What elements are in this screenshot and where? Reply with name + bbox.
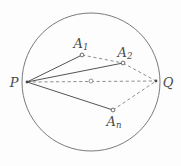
- point-label-A1: A1: [74, 37, 89, 50]
- vertex-marker-An: [111, 108, 115, 112]
- vertex-marker-A1: [80, 53, 84, 57]
- point-label-A2-sub: 2: [127, 51, 132, 61]
- point-label-A2: A2: [118, 46, 133, 59]
- point-label-An-text: A: [107, 114, 116, 129]
- point-label-A2-text: A: [118, 45, 127, 60]
- vertex-marker-Q: [155, 80, 158, 83]
- edge-P-A2: [27, 63, 123, 82]
- solid-edges-layer: [27, 55, 123, 110]
- point-label-Q-text: Q: [163, 75, 174, 90]
- edge-A2-Q: [123, 63, 156, 81]
- point-label-An: An: [107, 115, 122, 128]
- vertex-marker-A2: [121, 61, 125, 65]
- vertex-marker-P: [26, 81, 29, 84]
- point-label-A1-text: A: [74, 36, 83, 51]
- point-label-P-text: P: [10, 75, 19, 90]
- circle-center-marker: [89, 79, 93, 83]
- edge-P-An: [27, 82, 113, 110]
- geometry-figure: P Q A1 A2 An: [0, 0, 181, 166]
- geometry-canvas: [0, 0, 181, 166]
- point-label-Q: Q: [163, 76, 174, 89]
- point-label-A1-sub: 1: [83, 42, 88, 52]
- point-label-P: P: [10, 76, 19, 89]
- edge-An-Q: [113, 81, 156, 110]
- point-label-An-sub: n: [116, 120, 122, 130]
- edge-P-A1: [27, 55, 82, 82]
